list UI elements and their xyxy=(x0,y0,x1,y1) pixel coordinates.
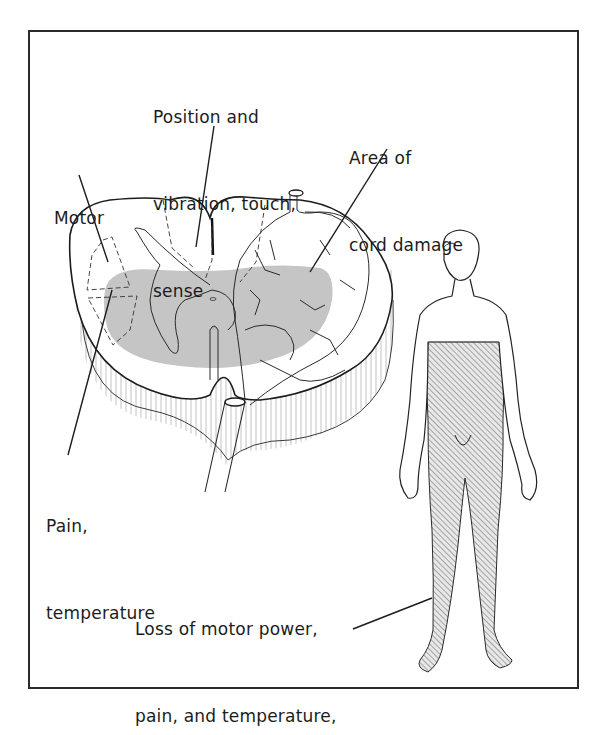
label-pain-temperature-line1: Pain, xyxy=(46,512,155,541)
label-motor: Motor xyxy=(54,146,104,291)
label-position-sense-line3: sense xyxy=(153,277,296,306)
label-deficit-line2: pain, and temperature, xyxy=(135,702,337,731)
label-position-sense-line2: vibration, touch, xyxy=(153,190,296,219)
label-position-sense: Position and vibration, touch, sense xyxy=(153,45,296,364)
label-deficit-description: Loss of motor power, pain, and temperatu… xyxy=(135,557,337,735)
label-position-sense-line1: Position and xyxy=(153,103,296,132)
label-cord-damage: Area of cord damage xyxy=(349,86,463,318)
label-deficit-line1: Loss of motor power, xyxy=(135,615,337,644)
label-cord-damage-line1: Area of xyxy=(349,144,463,173)
label-motor-line1: Motor xyxy=(54,204,104,233)
label-cord-damage-line2: cord damage xyxy=(349,231,463,260)
